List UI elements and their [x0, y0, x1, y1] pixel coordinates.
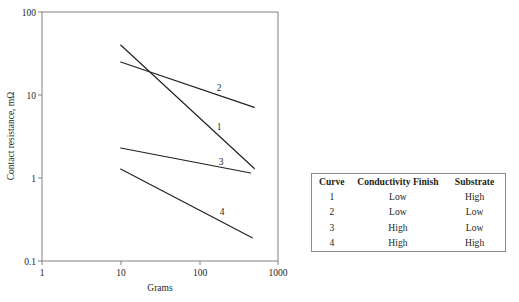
x-axis-ticks: [42, 261, 278, 265]
cell-curve: 2: [312, 204, 352, 220]
legend-table: Curve Conductivity Finish Substrate 1 Lo…: [311, 173, 506, 252]
cell-conductivity-finish: Low: [352, 204, 445, 220]
cell-substrate: Low: [444, 220, 505, 236]
table-header-row: Curve Conductivity Finish Substrate: [312, 174, 505, 189]
curve-4-line: [121, 169, 253, 238]
curve-label-4: 4: [220, 207, 225, 217]
cell-substrate: Low: [444, 204, 505, 220]
y-tick-label-0.1: 0.1: [24, 257, 36, 267]
curve-2-line: [121, 62, 255, 107]
curve-conditions-table: Curve Conductivity Finish Substrate 1 Lo…: [312, 174, 505, 251]
cell-conductivity-finish: Low: [352, 189, 445, 205]
curve-label-3: 3: [219, 157, 224, 167]
y-axis-title: Contact resistance, mΩ: [6, 92, 16, 181]
figure-container: 100 10 1 0.1 1 10 100 1000 Grams Contact…: [0, 0, 300, 302]
cell-curve: 3: [312, 220, 352, 236]
curve-label-1: 1: [217, 122, 222, 132]
y-tick-label-10: 10: [27, 91, 37, 101]
contact-resistance-log-log-chart: 100 10 1 0.1 1 10 100 1000 Grams Contact…: [0, 0, 300, 302]
y-tick-label-1: 1: [31, 174, 36, 184]
column-header-curve: Curve: [312, 174, 352, 189]
y-axis-ticks: [38, 12, 42, 261]
cell-substrate: High: [444, 235, 505, 251]
cell-curve: 4: [312, 235, 352, 251]
cell-conductivity-finish: High: [352, 235, 445, 251]
table-row: 4 High High: [312, 235, 505, 251]
cell-substrate: High: [444, 189, 505, 205]
cell-conductivity-finish: High: [352, 220, 445, 236]
column-header-conductivity-finish: Conductivity Finish: [352, 174, 445, 189]
y-tick-label-100: 100: [22, 8, 37, 18]
table-row: 3 High Low: [312, 220, 505, 236]
curve-1-line: [121, 45, 255, 169]
data-curves: [121, 45, 255, 238]
column-header-substrate: Substrate: [444, 174, 505, 189]
x-axis-title: Grams: [147, 283, 173, 293]
table-row: 2 Low Low: [312, 204, 505, 220]
x-tick-label-10: 10: [116, 268, 126, 278]
cell-curve: 1: [312, 189, 352, 205]
curve-label-2: 2: [217, 83, 222, 93]
x-tick-label-1: 1: [40, 268, 45, 278]
x-tick-label-100: 100: [193, 268, 208, 278]
table-row: 1 Low High: [312, 189, 505, 205]
x-tick-label-1000: 1000: [269, 268, 288, 278]
curve-3-line: [121, 148, 251, 173]
plot-frame: [42, 12, 278, 261]
